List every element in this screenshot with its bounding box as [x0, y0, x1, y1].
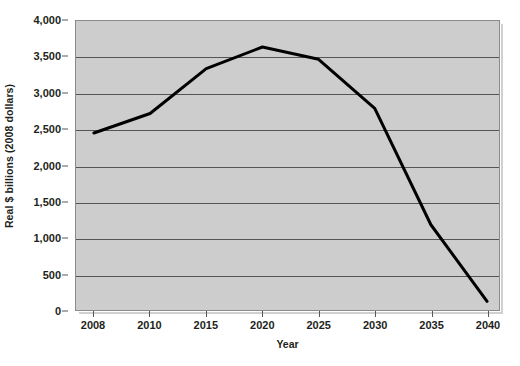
x-tick-label: 2008 [81, 320, 105, 331]
line-series [76, 21, 499, 310]
y-tick-mark [62, 201, 68, 202]
y-tick-label: 2,500 [33, 124, 61, 135]
x-tick-mark [262, 311, 263, 317]
plot-area [75, 20, 500, 311]
y-tick-label: 4,000 [33, 15, 61, 26]
x-tick-mark [149, 311, 150, 317]
y-tick-label: 1,500 [33, 196, 61, 207]
x-tick-mark [319, 311, 320, 317]
y-tick-mark [62, 56, 68, 57]
x-axis-ticks: 20082010201520202025203020352040 [75, 311, 500, 341]
x-tick-mark [206, 311, 207, 317]
y-tick-label: 3,000 [33, 87, 61, 98]
series-polyline [94, 47, 487, 301]
y-tick-label: 500 [43, 269, 61, 280]
y-tick-mark [62, 238, 68, 239]
y-tick-mark [62, 92, 68, 93]
y-tick-mark [62, 165, 68, 166]
y-axis-ticks: 05001,0001,5002,0002,5003,0003,5004,000 [18, 20, 68, 311]
x-tick-mark [488, 311, 489, 317]
y-tick-label: 2,000 [33, 160, 61, 171]
x-tick-label: 2015 [194, 320, 218, 331]
y-tick-mark [62, 129, 68, 130]
x-axis-title: Year [75, 338, 500, 350]
y-tick-label: 3,500 [33, 51, 61, 62]
x-tick-label: 2030 [363, 320, 387, 331]
chart-figure: Real $ billions (2008 dollars) 05001,000… [0, 0, 520, 366]
y-tick-mark [62, 274, 68, 275]
y-axis-title-text: Real $ billions (2008 dollars) [3, 83, 15, 227]
y-tick-label: 1,000 [33, 233, 61, 244]
x-tick-label: 2010 [137, 320, 161, 331]
x-tick-mark [375, 311, 376, 317]
y-tick-mark [62, 20, 68, 21]
x-tick-mark [93, 311, 94, 317]
y-tick-label: 0 [55, 306, 61, 317]
y-axis-title: Real $ billions (2008 dollars) [0, 0, 18, 311]
x-tick-label: 2020 [250, 320, 274, 331]
clipped-caption [66, 0, 266, 2]
x-tick-label: 2035 [419, 320, 443, 331]
x-tick-mark [432, 311, 433, 317]
y-tick-mark [62, 311, 68, 312]
x-tick-label: 2025 [306, 320, 330, 331]
x-tick-label: 2040 [476, 320, 500, 331]
